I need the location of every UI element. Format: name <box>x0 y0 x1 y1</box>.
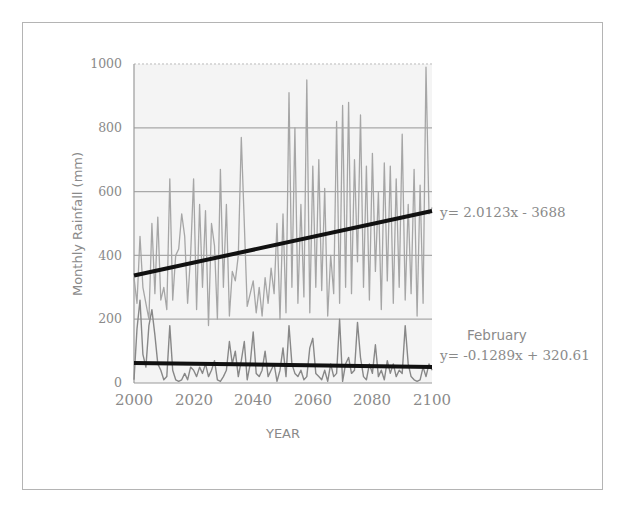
x-tick-2040: 2040 <box>234 391 272 409</box>
x-tick-2020: 2020 <box>175 391 213 409</box>
y-tick-400: 400 <box>98 248 122 263</box>
x-axis-title: YEAR <box>265 426 300 441</box>
rainfall-chart: 0 200 400 600 800 1000 2000 2020 2040 20… <box>0 0 621 506</box>
main-trend-equation: y= 2.0123x - 3688 <box>439 204 566 220</box>
y-tick-200: 200 <box>98 311 122 326</box>
y-tick-800: 800 <box>98 120 122 135</box>
y-tick-labels: 0 200 400 600 800 1000 <box>90 56 122 390</box>
x-tick-2100: 2100 <box>413 391 451 409</box>
y-tick-1000: 1000 <box>90 56 122 71</box>
y-tick-600: 600 <box>98 184 122 199</box>
x-tick-labels: 2000 2020 2040 2060 2080 2100 <box>115 391 451 409</box>
y-tick-0: 0 <box>114 375 122 390</box>
x-tick-2060: 2060 <box>294 391 332 409</box>
x-tick-2080: 2080 <box>353 391 391 409</box>
y-axis-title: Monthly Rainfall (mm) <box>70 152 85 296</box>
x-tick-2000: 2000 <box>115 391 153 409</box>
february-label: February <box>467 327 527 343</box>
february-trend-equation: y= -0.1289x + 320.61 <box>439 347 590 363</box>
